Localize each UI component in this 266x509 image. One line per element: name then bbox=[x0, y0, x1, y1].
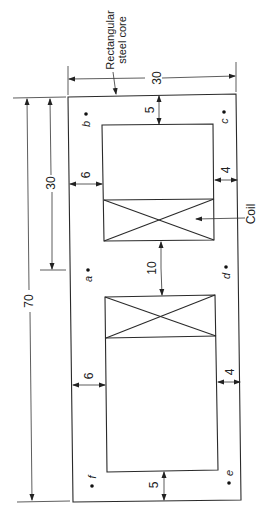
magnetic-core-diagram: 30 Rectangular steel core 70 30 5 5 6 6 … bbox=[0, 0, 266, 509]
point-e-label: e bbox=[223, 470, 235, 476]
point-b-label: b bbox=[80, 121, 92, 127]
steel-core-leader bbox=[113, 72, 116, 94]
upper-window-outline bbox=[102, 124, 214, 241]
upper-coil-cross-2 bbox=[104, 199, 214, 241]
steel-core-label-line2: steel core bbox=[116, 16, 128, 64]
center-limb-dim-down bbox=[161, 268, 162, 295]
coil-label: Coil bbox=[244, 204, 258, 225]
lower-coil-cross-2 bbox=[106, 295, 215, 338]
core-height-label: 70 bbox=[22, 294, 36, 308]
core-width-dim-left bbox=[69, 78, 145, 79]
point-a-label: a bbox=[82, 276, 94, 282]
window-span-dim-up bbox=[50, 99, 51, 175]
left-leg-lower-label: 6 bbox=[82, 372, 96, 379]
core-height-dim-down bbox=[30, 312, 32, 500]
height-ext-top bbox=[13, 97, 66, 98]
lower-coil-bottom bbox=[106, 336, 216, 338]
point-f-dot bbox=[90, 484, 94, 488]
left-leg-upper-label: 6 bbox=[79, 171, 93, 178]
point-b-dot bbox=[84, 112, 88, 116]
core-height-dim-up bbox=[27, 99, 29, 290]
core-width-label: 30 bbox=[150, 71, 164, 85]
right-leg-upper-label: 4 bbox=[219, 166, 233, 173]
point-e-dot bbox=[227, 481, 231, 485]
point-d-label: d bbox=[220, 272, 232, 279]
lower-window-outline bbox=[105, 295, 218, 472]
point-c-dot bbox=[222, 110, 226, 114]
steel-core-label-line1: Rectangular bbox=[104, 10, 116, 70]
upper-coil-top bbox=[104, 199, 214, 200]
point-a-dot bbox=[86, 268, 90, 272]
height-ext-bottom bbox=[17, 501, 70, 502]
right-leg-lower-label: 4 bbox=[223, 368, 237, 375]
window-span-label: 30 bbox=[44, 176, 58, 190]
center-limb-label: 10 bbox=[145, 261, 159, 275]
bottom-yoke-label: 5 bbox=[147, 481, 161, 488]
point-f-label: f bbox=[86, 475, 98, 479]
core-width-dim-right bbox=[162, 76, 235, 78]
top-yoke-label: 5 bbox=[143, 106, 157, 113]
point-c-label: c bbox=[218, 118, 230, 124]
point-d-dot bbox=[224, 265, 228, 269]
